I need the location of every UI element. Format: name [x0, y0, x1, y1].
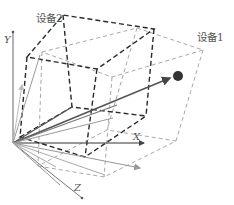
z-axis-label: Z — [74, 183, 81, 193]
device1-label: 设备1 — [197, 32, 224, 43]
device2-label: 设备2 — [36, 13, 63, 24]
x-axis-label: X — [133, 132, 140, 142]
z-axis — [13, 143, 82, 198]
y-axis-label: Y — [4, 35, 11, 45]
device1-point — [173, 71, 183, 81]
device1-box — [38, 28, 203, 177]
rays — [13, 55, 170, 185]
axes — [12, 31, 144, 200]
z-axis-tip — [81, 197, 84, 200]
y-axis-tip — [12, 31, 15, 34]
